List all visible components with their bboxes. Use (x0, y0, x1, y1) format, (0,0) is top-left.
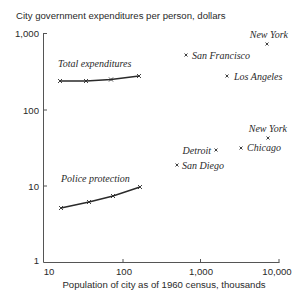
label-chicago: Chicago (247, 142, 281, 153)
x-tick-label: 100 (116, 266, 132, 277)
marker-chicago (240, 147, 243, 150)
y-tick-label: 1 (34, 255, 39, 266)
x-tick-label: 10,000 (262, 266, 291, 277)
series-total-expenditures (58, 74, 141, 83)
x-tick-labels: 10 100 1,000 10,000 (44, 266, 292, 277)
marker-ny-police (267, 137, 270, 140)
y-tick-label: 100 (23, 105, 39, 116)
x-axis-title: Population of city as of 1960 census, th… (62, 279, 265, 290)
marker-sf (185, 54, 188, 57)
series-label-police: Police protection (60, 173, 130, 184)
marker-la (226, 75, 229, 78)
label-detroit: Detroit (181, 145, 211, 156)
marker-san-diego (176, 164, 179, 167)
chart: City government expenditures per person,… (0, 0, 304, 303)
label-san-diego: San Diego (182, 160, 224, 171)
label-la: Los Angeles (233, 71, 283, 82)
marker-detroit (215, 149, 218, 152)
y-tick-labels: 1,000 100 10 1 (15, 28, 39, 266)
y-tick-label: 10 (28, 181, 39, 192)
marker-ny-total (266, 43, 269, 46)
series-label-total: Total expenditures (58, 58, 132, 69)
label-sf: San Francisco (192, 50, 250, 61)
series-police-protection (59, 185, 142, 210)
x-tick-label: 10 (44, 266, 55, 277)
x-tick-label: 1,000 (189, 266, 213, 277)
chart-title: City government expenditures per person,… (16, 10, 226, 21)
label-ny-total: New York (249, 29, 289, 40)
y-tick-label: 1,000 (15, 28, 39, 39)
label-ny-police: New York (248, 123, 288, 134)
